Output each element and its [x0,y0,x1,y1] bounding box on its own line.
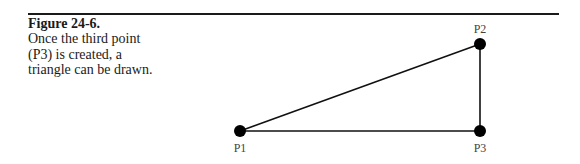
edge-p1-p2 [240,44,480,131]
label-p1: P1 [234,141,247,155]
triangle-diagram: P1 P2 P3 [0,0,580,164]
point-p1 [234,125,246,137]
label-p3: P3 [474,141,487,155]
label-p2: P2 [474,22,487,36]
point-p3 [474,125,486,137]
point-p2 [474,38,486,50]
